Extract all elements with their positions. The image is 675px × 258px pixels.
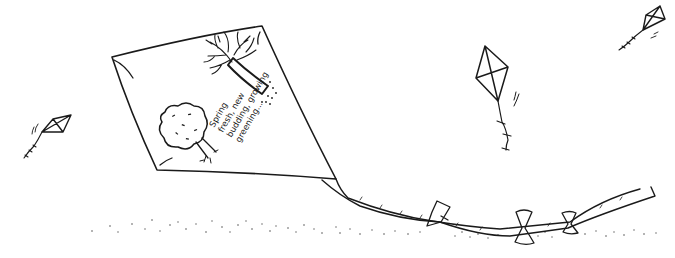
big-kite-tail xyxy=(322,179,655,244)
tail-bow-1 xyxy=(427,201,450,226)
kite-illustration: Spring fresh, new budding, growing green… xyxy=(0,0,675,258)
leafy-tree-drawing xyxy=(159,103,218,163)
big-kite: Spring fresh, new budding, growing green… xyxy=(112,26,336,179)
poem-text: Spring fresh, new budding, growing green… xyxy=(207,60,279,144)
small-kite-left xyxy=(24,115,71,158)
small-kite-top-right xyxy=(619,6,665,50)
small-kite-center xyxy=(476,46,519,150)
